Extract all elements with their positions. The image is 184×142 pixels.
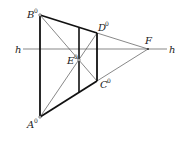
label-a: A bbox=[26, 119, 34, 130]
line-c-f bbox=[97, 49, 148, 81]
label-a-sup: 0 bbox=[34, 117, 38, 124]
point-a-dot bbox=[39, 116, 41, 118]
edge-c-a bbox=[40, 81, 97, 117]
line-d-f bbox=[97, 33, 148, 49]
label-c-sup: 0 bbox=[107, 77, 111, 84]
point-b-dot bbox=[39, 14, 41, 16]
perspective-diagram: h h B 0 D 0 E 0 C 0 A 0 F bbox=[0, 0, 184, 142]
label-b-sup: 0 bbox=[34, 7, 38, 14]
label-f: F bbox=[144, 35, 153, 46]
edge-b-d bbox=[40, 15, 97, 33]
label-e-sup: 0 bbox=[74, 53, 78, 60]
label-h-left: h bbox=[15, 44, 21, 55]
label-d-sup: 0 bbox=[105, 20, 109, 27]
point-e-dot bbox=[78, 59, 80, 61]
diagonal-a-d bbox=[40, 33, 97, 117]
point-f-dot bbox=[147, 48, 149, 50]
label-h-right: h bbox=[169, 44, 175, 55]
